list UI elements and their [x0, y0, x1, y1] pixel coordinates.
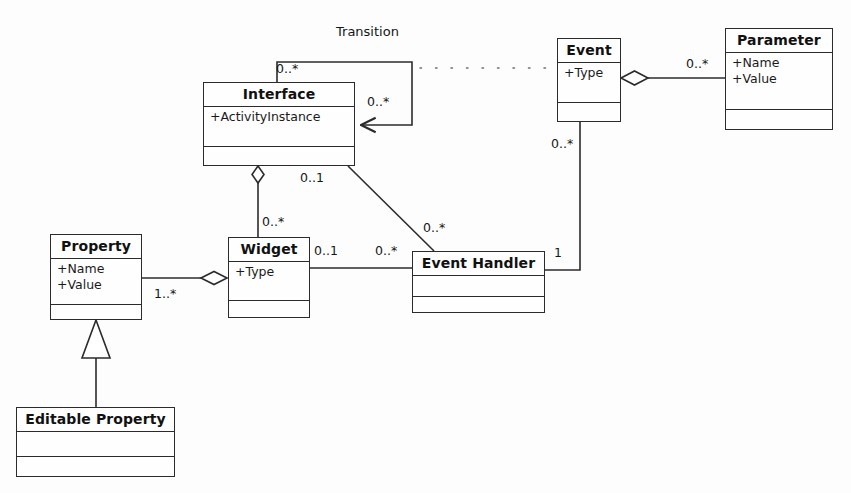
class-name-widget: Widget	[229, 238, 309, 262]
multiplicity-interface-loop-top: 0..*	[276, 61, 298, 76]
attribute-item: +Type	[235, 264, 303, 280]
multiplicity-widget-to-event-handler: 0..1	[314, 243, 338, 258]
class-attributes-event-handler	[413, 276, 544, 297]
attribute-item: +Name	[732, 55, 826, 71]
class-box-widget[interactable]: Widget +Type	[228, 237, 310, 318]
class-name-event-handler: Event Handler	[413, 252, 544, 276]
class-box-event[interactable]: Event +Type	[557, 38, 621, 122]
class-box-interface[interactable]: Interface +ActivityInstance	[203, 82, 355, 166]
multiplicity-interface-loop-right: 0..*	[367, 94, 389, 109]
class-box-editable-property[interactable]: Editable Property	[16, 407, 175, 477]
class-attributes-event: +Type	[558, 63, 620, 103]
edge-property-editable-property	[82, 320, 110, 407]
multiplicity-interface-to-event-handler: 0..1	[300, 170, 324, 185]
class-operations-interface	[204, 147, 354, 165]
class-operations-event	[558, 103, 620, 121]
attribute-item: +Name	[57, 261, 135, 277]
edge-event-parameter	[621, 71, 725, 85]
attribute-item: +ActivityInstance	[210, 109, 348, 125]
class-attributes-property: +Name +Value	[51, 259, 141, 305]
multiplicity-event-handler-from-widget: 0..*	[375, 243, 397, 258]
association-name-transition: Transition	[336, 24, 399, 39]
class-box-property[interactable]: Property +Name +Value	[50, 234, 142, 320]
class-operations-property	[51, 305, 141, 319]
class-attributes-interface: +ActivityInstance	[204, 107, 354, 147]
multiplicity-widget-from-interface: 0..*	[262, 214, 284, 229]
class-name-event: Event	[558, 39, 620, 63]
attribute-item: +Value	[57, 277, 135, 293]
class-box-event-handler[interactable]: Event Handler	[412, 251, 545, 313]
class-operations-widget	[229, 301, 309, 318]
class-operations-editable-property	[17, 457, 174, 476]
class-operations-parameter	[726, 110, 832, 129]
attribute-item: +Value	[732, 71, 826, 87]
class-attributes-editable-property	[17, 432, 174, 457]
multiplicity-property-to-widget: 1..*	[154, 286, 176, 301]
class-name-property: Property	[51, 235, 141, 259]
multiplicity-event-handler-from-interface: 0..*	[423, 220, 445, 235]
class-attributes-parameter: +Name +Value	[726, 53, 832, 110]
multiplicity-event-handler-from-event: 1	[554, 245, 562, 260]
class-name-editable-property: Editable Property	[17, 408, 174, 432]
edge-property-widget	[142, 272, 227, 285]
class-operations-event-handler	[413, 297, 544, 312]
class-attributes-widget: +Type	[229, 262, 309, 301]
class-name-interface: Interface	[204, 83, 354, 107]
uml-class-diagram: Interface +ActivityInstance Event +Type …	[0, 0, 851, 493]
class-name-parameter: Parameter	[726, 29, 832, 53]
edge-interface-event-handler	[348, 166, 434, 251]
multiplicity-event-to-event-handler: 0..*	[551, 136, 573, 151]
attribute-item: +Type	[564, 65, 614, 81]
multiplicity-parameter-from-event: 0..*	[686, 56, 708, 71]
class-box-parameter[interactable]: Parameter +Name +Value	[725, 28, 833, 130]
